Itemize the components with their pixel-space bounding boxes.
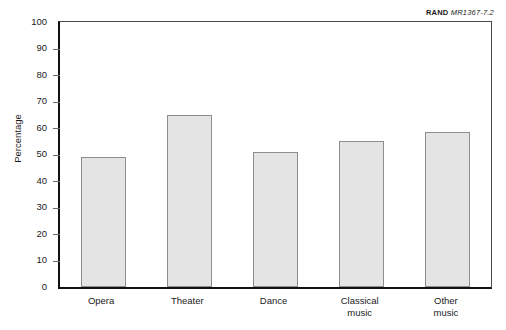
y-axis-tick-label: 30 bbox=[36, 201, 47, 212]
y-axis-tick-label: 70 bbox=[36, 95, 47, 106]
bar bbox=[81, 157, 126, 287]
bar bbox=[167, 115, 212, 287]
plot-area: 1009080706050403020100 bbox=[60, 22, 491, 287]
y-axis-tick-label: 10 bbox=[36, 254, 47, 265]
y-axis-tick-label: 20 bbox=[36, 228, 47, 239]
y-axis-tick-label: 100 bbox=[31, 16, 47, 27]
source-organization: RAND bbox=[426, 8, 448, 17]
y-axis-tick-mark bbox=[53, 234, 60, 235]
x-axis-category-label: Theater bbox=[142, 295, 232, 307]
y-axis-tick-label: 0 bbox=[42, 281, 47, 292]
y-axis-tick-mark bbox=[53, 261, 60, 262]
y-axis-tick-mark bbox=[53, 155, 60, 156]
bar bbox=[425, 132, 470, 287]
y-axis-tick-mark bbox=[53, 208, 60, 209]
x-axis-category-label: Opera bbox=[56, 295, 146, 307]
y-axis-tick-mark bbox=[53, 128, 60, 129]
plot-frame: 1009080706050403020100 bbox=[58, 21, 492, 289]
x-axis-category-label: Classical music bbox=[315, 295, 405, 318]
bar-chart-figure: RAND MR1367-7.2 Percentage 1009080706050… bbox=[0, 0, 506, 330]
bar bbox=[339, 141, 384, 287]
y-axis-tick-label: 50 bbox=[36, 148, 47, 159]
y-axis-tick-mark bbox=[53, 49, 60, 50]
y-axis-tick-mark bbox=[53, 75, 60, 76]
source-tag: RAND MR1367-7.2 bbox=[426, 8, 494, 17]
x-axis-category-label: Other music bbox=[401, 295, 491, 318]
x-axis-category-label: Dance bbox=[229, 295, 319, 307]
y-axis-title: Percentage bbox=[9, 0, 25, 276]
y-axis-tick-label: 80 bbox=[36, 69, 47, 80]
y-axis-tick-label: 40 bbox=[36, 175, 47, 186]
source-document-code: MR1367-7.2 bbox=[451, 8, 494, 17]
y-axis-title-label: Percentage bbox=[12, 114, 23, 163]
y-axis-tick-label: 90 bbox=[36, 42, 47, 53]
bar bbox=[253, 152, 298, 287]
y-axis-tick-label: 60 bbox=[36, 122, 47, 133]
y-axis-tick-mark bbox=[53, 181, 60, 182]
y-axis-tick-mark bbox=[53, 102, 60, 103]
